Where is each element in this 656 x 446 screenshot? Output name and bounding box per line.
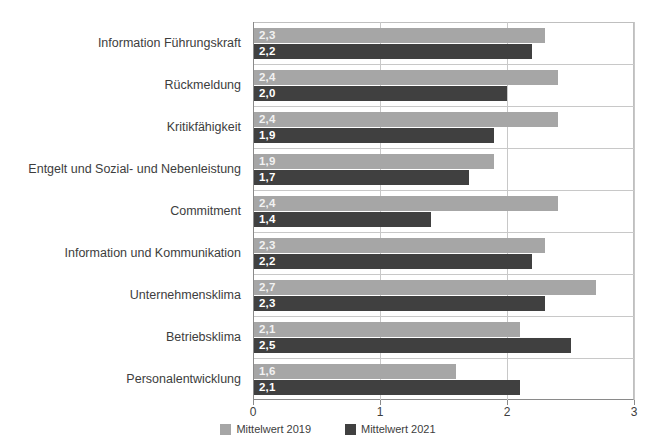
- bar-value-label: 1,9: [259, 155, 276, 167]
- bar-2021: 2,3: [253, 296, 545, 311]
- category-label: Commitment: [170, 204, 241, 218]
- gridline: [634, 22, 635, 400]
- legend-label: Mittelwert 2021: [361, 423, 436, 435]
- bar-value-label: 2,3: [259, 29, 276, 41]
- category-axis-labels: Information FührungskraftRückmeldungKrit…: [0, 22, 249, 400]
- bar-2019: 2,1: [253, 322, 520, 337]
- legend-item-2019[interactable]: Mittelwert 2019: [220, 423, 311, 435]
- bar-2021: 1,9: [253, 128, 494, 143]
- category-label: Entgelt und Sozial- und Nebenleistung: [28, 162, 241, 176]
- bar-2021: 2,2: [253, 44, 532, 59]
- bar-value-label: 1,4: [259, 213, 276, 225]
- bar-value-label: 1,6: [259, 365, 276, 377]
- bar-2021: 2,0: [253, 86, 507, 101]
- bar-value-label: 2,1: [259, 323, 276, 335]
- category-separator: [253, 316, 634, 317]
- tick-label: 3: [631, 405, 638, 419]
- bar-2019: 1,6: [253, 364, 456, 379]
- tick-label: 1: [377, 405, 384, 419]
- category-label: Unternehmensklima: [130, 288, 241, 302]
- category-label: Personalentwicklung: [126, 372, 241, 386]
- bar-2021: 2,1: [253, 380, 520, 395]
- bar-value-label: 2,4: [259, 71, 276, 83]
- legend-swatch-icon: [220, 424, 231, 435]
- bar-value-label: 2,4: [259, 113, 276, 125]
- category-label: Betriebsklima: [166, 330, 241, 344]
- category-separator: [253, 106, 634, 107]
- category-separator: [253, 190, 634, 191]
- bar-2021: 2,5: [253, 338, 571, 353]
- bar-2019: 2,3: [253, 238, 545, 253]
- category-separator: [253, 64, 634, 65]
- tick-label: 0: [250, 405, 257, 419]
- bar-2021: 1,7: [253, 170, 469, 185]
- category-separator: [253, 148, 634, 149]
- bar-2019: 1,9: [253, 154, 494, 169]
- bar-chart: Information FührungskraftRückmeldungKrit…: [0, 0, 656, 446]
- bar-value-label: 2,7: [259, 281, 276, 293]
- tick-label: 2: [504, 405, 511, 419]
- legend-item-2021[interactable]: Mittelwert 2021: [345, 423, 436, 435]
- category-separator: [253, 274, 634, 275]
- chart-legend: Mittelwert 2019Mittelwert 2021: [0, 423, 656, 435]
- bar-2019: 2,7: [253, 280, 596, 295]
- bar-value-label: 2,0: [259, 87, 276, 99]
- bar-value-label: 2,3: [259, 239, 276, 251]
- bar-value-label: 2,2: [259, 255, 276, 267]
- plot-area: 2,32,22,42,02,41,91,91,72,41,42,32,22,72…: [253, 22, 634, 400]
- legend-label: Mittelwert 2019: [236, 423, 311, 435]
- bar-value-label: 2,5: [259, 339, 276, 351]
- bar-2019: 2,4: [253, 70, 558, 85]
- bar-value-label: 2,3: [259, 297, 276, 309]
- value-axis-line: [253, 22, 254, 401]
- bar-value-label: 2,4: [259, 197, 276, 209]
- category-label: Information und Kommunikation: [65, 246, 241, 260]
- bar-value-label: 2,2: [259, 45, 276, 57]
- category-label: Kritikfähigkeit: [167, 120, 241, 134]
- category-separator: [253, 358, 634, 359]
- bar-2021: 2,2: [253, 254, 532, 269]
- bar-value-label: 1,9: [259, 129, 276, 141]
- bar-2019: 2,3: [253, 28, 545, 43]
- bar-value-label: 2,1: [259, 381, 276, 393]
- bar-value-label: 1,7: [259, 171, 276, 183]
- category-label: Information Führungskraft: [98, 36, 241, 50]
- category-label: Rückmeldung: [165, 78, 241, 92]
- bar-2021: 1,4: [253, 212, 431, 227]
- bar-2019: 2,4: [253, 196, 558, 211]
- bar-2019: 2,4: [253, 112, 558, 127]
- legend-swatch-icon: [345, 424, 356, 435]
- category-separator: [253, 232, 634, 233]
